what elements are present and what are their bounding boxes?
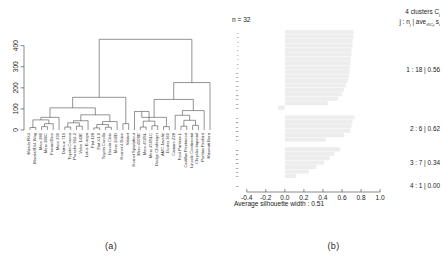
dendrogram-leaf-label: Merc 450SE <box>136 133 141 156</box>
dendrogram-leaf-label: Mazda RX4 <box>26 132 31 154</box>
silhouette-row-index: 13 <box>236 85 239 88</box>
average-width-label: Average silhouette width : 0.51 <box>234 200 324 208</box>
dendrogram-branch <box>103 122 118 130</box>
dendrogram-branch <box>42 127 48 130</box>
cluster-summary-label: 3 : 7 | 0.34 <box>410 159 441 167</box>
silhouette-bar <box>285 156 330 160</box>
silhouette-bar <box>285 70 350 74</box>
silhouette-row-index: 23 <box>236 135 239 138</box>
silhouette-bar <box>285 124 352 128</box>
silhouette-bar <box>285 174 296 178</box>
y-tick-label: 400 <box>12 40 19 51</box>
dendrogram-branch <box>50 108 95 117</box>
dendrogram-leaf-label: Dodge Challenger <box>154 132 159 166</box>
dendrogram-leaf-label: Lotus Europa <box>84 132 89 157</box>
sample-size-label: n = 32 <box>232 16 251 23</box>
dendrogram-leaf-label: Merc 280 <box>38 132 43 150</box>
dendrogram-branch <box>105 127 111 130</box>
dendrogram-branch <box>152 126 158 130</box>
silhouette-row-index: 8 <box>237 63 239 66</box>
silhouette-x-axis: -0.4-0.20.00.20.40.60.81.0 <box>241 189 385 201</box>
silhouette-row-index: 16 <box>236 98 239 101</box>
silhouette-row-index: 32 <box>236 185 239 188</box>
dendrogram-leaf-label: Merc 230 <box>55 132 60 150</box>
x-tick-label: 1.0 <box>376 194 385 201</box>
dendrogram-leaf-label: Ford Pantera L <box>177 132 182 160</box>
silhouette-row-index: 26 <box>236 153 239 156</box>
dendrogram-branch <box>154 99 193 117</box>
y-tick-label: 300 <box>12 61 19 72</box>
panel-b-caption: (b) <box>222 241 445 251</box>
silhouette-row-index: 7 <box>237 58 239 61</box>
dendrogram-y-axis: 0100200300400 <box>12 40 24 132</box>
silhouette-bar <box>285 97 338 101</box>
silhouette-bar <box>285 120 353 124</box>
y-tick-label: 200 <box>12 82 19 93</box>
dendrogram-leaf-label: Toyota Corona <box>67 132 72 159</box>
silhouette-row-indices: 1234567891011121314151617181920212223242… <box>236 32 239 189</box>
silhouette-bar <box>285 115 355 119</box>
dendrogram-branch <box>174 83 210 130</box>
silhouette-bar <box>285 52 352 56</box>
dendrogram-leaf-label: Pontiac Firebird <box>200 132 205 161</box>
cluster-summary-label: 2 : 6 | 0.62 <box>410 125 441 133</box>
silhouette-row-index: 30 <box>236 171 239 174</box>
dendrogram-branch <box>30 127 36 130</box>
dendrogram-branch <box>164 127 170 130</box>
x-tick-label: 0.6 <box>337 194 346 201</box>
silhouette-row-index: 12 <box>236 80 239 83</box>
x-tick-label: 0.8 <box>356 194 365 201</box>
silhouette-bar <box>285 88 344 92</box>
silhouette-row-index: 14 <box>236 89 239 92</box>
silhouette-bar <box>285 39 353 43</box>
silhouette-row-index: 19 <box>236 117 239 120</box>
dendrogram-leaf-label: Porsche 914-2 <box>72 132 77 159</box>
dendrogram-branch <box>140 127 146 130</box>
silhouette-bar <box>285 152 335 156</box>
dendrogram-leaf-label: Cadillac Fleetwood <box>183 132 188 167</box>
silhouette-row-index: 21 <box>236 126 239 129</box>
dendrogram-leaf-label: Valiant <box>125 132 130 145</box>
silhouette-row-index: 6 <box>237 54 239 57</box>
silhouette-bar <box>285 35 354 39</box>
header-clusters-text: 4 clusters C <box>405 8 439 15</box>
silhouette-row-index: 11 <box>236 76 239 79</box>
silhouette-cluster-labels: 1 : 18 | 0.562 : 6 | 0.623 : 7 | 0.344 :… <box>406 66 440 190</box>
silhouette-row-index: 17 <box>236 103 239 106</box>
dendrogram-plot: 0100200300400 Mazda RX4Mazda RX4 WagMerc… <box>0 0 222 225</box>
dendrogram-branch <box>76 126 82 130</box>
silhouette-row-index: 1 <box>237 32 239 35</box>
dendrogram-leaf-labels: Mazda RX4Mazda RX4 WagMerc 280Merc 280CF… <box>26 132 211 168</box>
panel-a-caption: (a) <box>0 241 222 251</box>
dendrogram-leaf-label: Merc 450SLC <box>148 133 153 158</box>
dendrogram-leaf-label: Honda Civic <box>107 133 112 155</box>
silhouette-bar <box>285 83 346 87</box>
silhouette-bar <box>285 66 350 70</box>
panel-a-dendrogram: 0100200300400 Mazda RX4Mazda RX4 WagMerc… <box>0 0 222 257</box>
dendrogram-leaf-label: Lincoln Continental <box>189 133 194 168</box>
dendrogram-branch <box>65 127 71 130</box>
dendrogram-leaf-label: Hornet Sportabout <box>131 132 136 166</box>
silhouette-bar <box>285 138 326 142</box>
silhouette-bar <box>285 133 344 137</box>
silhouette-header: 4 clusters Cj j : nj | avei∈Cj si <box>398 8 440 27</box>
dendrogram-leaf-label: Chrysler Imperial <box>194 133 199 164</box>
silhouette-row-index: 22 <box>236 130 239 133</box>
silhouette-row-index: 18 <box>236 107 239 110</box>
dendrogram-leaf-label: AMC Javelin <box>160 132 165 156</box>
header-formula-sub2: i∈C <box>426 22 433 27</box>
silhouette-bar <box>285 161 324 165</box>
silhouette-bar <box>285 30 354 34</box>
dendrogram-leaf-label: Ferrari Dino <box>49 132 54 154</box>
silhouette-bar <box>285 129 351 133</box>
silhouette-bar <box>285 101 328 105</box>
silhouette-row-index: 31 <box>236 175 239 178</box>
dendrogram-branch <box>181 126 187 130</box>
header-clusters-sub: j <box>438 12 440 17</box>
y-tick-label: 100 <box>12 103 19 114</box>
silhouette-row-index: 5 <box>237 49 239 52</box>
dendrogram-tree <box>30 39 210 130</box>
silhouette-row-index: 24 <box>236 139 239 142</box>
panel-b-silhouette: n = 32 4 clusters Cj j : nj | avei∈Cj si… <box>222 0 445 257</box>
dendrogram-branch <box>74 121 89 130</box>
